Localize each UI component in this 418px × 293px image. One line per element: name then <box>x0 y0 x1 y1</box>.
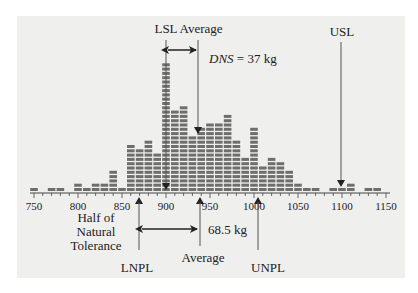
histogram-bar <box>118 188 126 191</box>
histogram-bar <box>303 188 311 191</box>
half-natural-tolerance-label: Half of Natural Tolerance <box>70 210 121 253</box>
histogram-bars <box>30 63 381 191</box>
histogram-bar <box>74 184 82 191</box>
histogram-bar <box>250 128 258 191</box>
histogram-bar <box>30 188 38 191</box>
histogram-bar <box>259 167 267 192</box>
arrow-down-icon <box>337 180 345 187</box>
histogram-bar <box>338 188 346 191</box>
histogram-bar <box>268 158 276 191</box>
histogram-bar <box>153 154 161 191</box>
histogram-bar <box>347 184 355 191</box>
histogram-bar <box>101 184 109 191</box>
histogram-bar <box>329 188 337 191</box>
histogram-bar <box>285 171 293 191</box>
histogram-bar <box>215 124 223 192</box>
x-tick-label: 1100 <box>331 200 353 212</box>
histogram-bar <box>92 184 100 191</box>
svg-text:Natural: Natural <box>77 224 116 239</box>
x-tick-label: 950 <box>202 200 219 212</box>
histogram-bar <box>180 106 188 191</box>
average-bottom-label: Average <box>181 250 224 265</box>
lsl-label: LSL <box>154 21 177 36</box>
svg-text:Tolerance: Tolerance <box>70 238 121 253</box>
average-top-label: Average <box>179 21 222 36</box>
histogram-chart: 7508008509009501000105011001150 LSL Aver… <box>0 0 418 293</box>
lnpl-label: LNPL <box>121 260 154 275</box>
x-tick-label: 750 <box>26 200 43 212</box>
x-tick-label: 850 <box>114 200 131 212</box>
tolerance-value-label: 68.5 kg <box>208 222 248 237</box>
histogram-bar <box>83 188 91 191</box>
histogram-bar <box>277 162 285 191</box>
x-tick-label: 900 <box>158 200 175 212</box>
x-tick-label: 1150 <box>375 200 397 212</box>
histogram-bar <box>373 188 381 191</box>
histogram-bar <box>127 145 135 191</box>
usl-annotation: USL <box>330 24 355 187</box>
histogram-bar <box>197 128 205 191</box>
histogram-bar <box>57 188 65 191</box>
histogram-bar <box>136 149 144 191</box>
histogram-bar <box>241 158 249 191</box>
histogram-bar <box>233 141 241 191</box>
histogram-bar <box>206 124 214 192</box>
x-tick-label: 1050 <box>287 200 310 212</box>
histogram-bar <box>294 184 302 191</box>
usl-label: USL <box>330 24 355 39</box>
histogram-bar <box>365 188 373 191</box>
histogram-bar <box>145 141 153 191</box>
histogram-bar <box>48 188 56 191</box>
dns-label: DNS = 37 kg <box>208 51 277 66</box>
x-tick-label: 1000 <box>243 200 266 212</box>
histogram-bar <box>189 136 197 191</box>
histogram-bar <box>171 111 179 191</box>
svg-text:Half of: Half of <box>77 210 115 225</box>
histogram-bar <box>109 171 117 191</box>
histogram-bar <box>224 115 232 191</box>
unpl-label: UNPL <box>251 260 285 275</box>
histogram-bar <box>312 188 320 191</box>
